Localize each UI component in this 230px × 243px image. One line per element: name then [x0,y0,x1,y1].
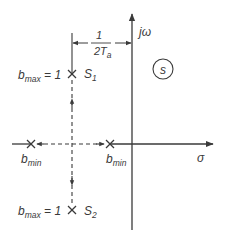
bmin-left-label: bmin [21,152,42,168]
pole-s2-cross-icon [68,206,76,214]
pole-s1-name: S1 [84,67,97,83]
pole-s2-value-label: bmax = 1 [18,204,61,220]
bmin-right-label: bmin [106,152,127,168]
pole-s1-value-label: bmax = 1 [18,68,61,84]
imaginary-axis-label: jω [137,25,151,39]
pole-s2-name: S2 [84,204,97,220]
real-axis-label: σ [197,151,205,165]
s-plane-diagram: jω σ 1 2Ta S1 bmax = 1 S2 bmax = 1 bmin … [0,0,230,243]
dimension-denominator: 2Ta [93,45,112,60]
s-plane-label: s [160,63,166,77]
dimension-numerator: 1 [96,29,102,41]
